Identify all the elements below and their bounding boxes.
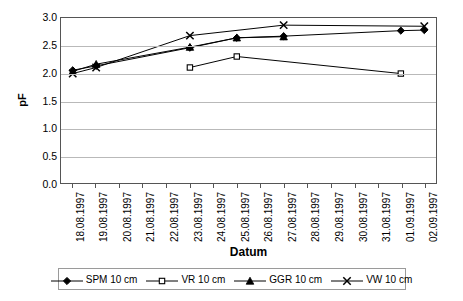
legend-label: SPM 10 cm (84, 274, 140, 285)
legend-marker-filled-diamond-icon (50, 273, 84, 285)
chart-legend: SPM 10 cmVR 10 cmGGR 10 cmVW 10 cm (58, 268, 406, 290)
x-tick-mark (95, 184, 96, 188)
y-tick-label: 2.0 (31, 68, 57, 78)
legend-marker-filled-triangle-icon (233, 273, 267, 285)
x-tick-mark (331, 184, 332, 188)
gridline (61, 129, 436, 130)
series-line-1 (190, 57, 401, 74)
y-tick-label: 0.0 (31, 179, 57, 189)
data-point-open-square (187, 65, 192, 70)
legend-item[interactable]: SPM 10 cm (50, 273, 140, 285)
plot-area (60, 17, 437, 184)
data-point-open-square (160, 278, 165, 283)
legend-marker-cross-x-icon (330, 273, 364, 285)
x-axis-title: Datum (60, 245, 437, 259)
data-point-open-square (234, 54, 239, 59)
x-tick-mark (72, 184, 73, 188)
legend-label: GGR 10 cm (267, 274, 324, 285)
series-layer (61, 18, 436, 183)
series-line-2 (73, 37, 284, 72)
x-tick-mark (213, 184, 214, 188)
gridline (61, 46, 436, 47)
x-tick-mark (260, 184, 261, 188)
legend-item[interactable]: VR 10 cm (145, 273, 227, 285)
y-tick-label: 3.0 (31, 12, 57, 22)
data-point-filled-diamond (421, 27, 428, 34)
legend-label: VR 10 cm (179, 274, 227, 285)
gridline (61, 74, 436, 75)
y-axis-tick-labels: 0.00.51.01.52.02.53.0 (28, 0, 57, 301)
x-tick-mark (237, 184, 238, 188)
x-tick-mark (355, 184, 356, 188)
legend-label: VW 10 cm (364, 274, 414, 285)
data-point-filled-diamond (397, 27, 404, 34)
legend-item[interactable]: VW 10 cm (330, 273, 414, 285)
x-tick-mark (166, 184, 167, 188)
x-tick-mark (284, 184, 285, 188)
y-tick-label: 1.0 (31, 123, 57, 133)
y-tick-label: 2.5 (31, 40, 57, 50)
x-tick-mark (425, 184, 426, 188)
line-chart: pF 0.00.51.01.52.02.53.0 18.08.199719.08… (0, 0, 463, 301)
series-line-0 (73, 30, 425, 70)
y-tick-label: 0.5 (31, 151, 57, 161)
legend-item[interactable]: GGR 10 cm (233, 273, 324, 285)
x-tick-mark (119, 184, 120, 188)
gridline (61, 102, 436, 103)
x-tick-mark (307, 184, 308, 188)
x-tick-mark (378, 184, 379, 188)
legend-marker-open-square-icon (145, 273, 179, 285)
y-tick-label: 1.5 (31, 96, 57, 106)
x-tick-mark (190, 184, 191, 188)
x-tick-mark (142, 184, 143, 188)
x-tick-mark (402, 184, 403, 188)
data-point-filled-diamond (63, 277, 70, 284)
gridline (61, 157, 436, 158)
